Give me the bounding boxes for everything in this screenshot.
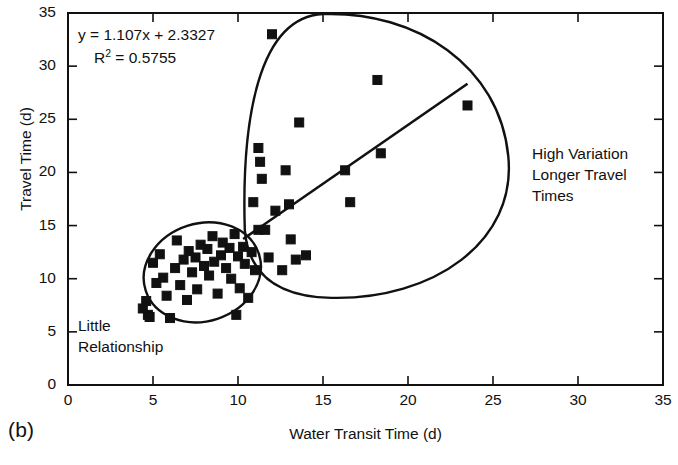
data-point bbox=[256, 157, 265, 166]
data-point bbox=[193, 285, 202, 294]
x-axis-label: Water Transit Time (d) bbox=[68, 425, 663, 443]
x-tick-label: 20 bbox=[388, 391, 428, 409]
data-point bbox=[208, 232, 217, 241]
annotation-little-relationship: Little Relationship bbox=[78, 316, 163, 358]
data-point bbox=[302, 251, 311, 260]
data-point bbox=[162, 291, 171, 300]
x-tick-label: 30 bbox=[558, 391, 598, 409]
data-point bbox=[268, 30, 277, 39]
data-point bbox=[254, 143, 263, 152]
y-tick-label: 35 bbox=[22, 3, 56, 21]
x-tick-label: 35 bbox=[643, 391, 678, 409]
data-point bbox=[257, 174, 266, 183]
data-point bbox=[183, 295, 192, 304]
regression-equation: y = 1.107x + 2.3327 R2 = 0.5755 bbox=[78, 24, 215, 70]
data-point bbox=[179, 255, 188, 264]
x-tick-label: 0 bbox=[48, 391, 88, 409]
data-point bbox=[286, 235, 295, 244]
y-tick-label: 20 bbox=[22, 162, 56, 180]
data-point bbox=[278, 266, 287, 275]
figure-panel: y = 1.107x + 2.3327 R2 = 0.5755 High Var… bbox=[0, 0, 678, 465]
data-point bbox=[142, 297, 151, 306]
data-point bbox=[291, 255, 300, 264]
data-point bbox=[271, 206, 280, 215]
x-tick-label: 25 bbox=[473, 391, 513, 409]
data-point bbox=[171, 264, 180, 273]
y-tick-label: 5 bbox=[22, 322, 56, 340]
data-point bbox=[244, 293, 253, 302]
data-point bbox=[341, 166, 350, 175]
r-squared-text: R2 = 0.5755 bbox=[94, 46, 215, 70]
equation-text: y = 1.107x + 2.3327 bbox=[78, 26, 215, 43]
data-point bbox=[376, 149, 385, 158]
data-point bbox=[217, 251, 226, 260]
annotation-high-variation: High Variation Longer Travel Times bbox=[532, 144, 628, 207]
data-point bbox=[373, 75, 382, 84]
annotation-left-line-1: Little bbox=[78, 316, 163, 337]
data-point bbox=[159, 273, 168, 282]
data-point bbox=[188, 268, 197, 277]
data-point bbox=[249, 198, 258, 207]
data-point bbox=[225, 243, 234, 252]
data-point bbox=[200, 261, 209, 270]
y-tick-label: 25 bbox=[22, 109, 56, 127]
annotation-left-line-2: Relationship bbox=[78, 337, 163, 358]
data-point bbox=[240, 259, 249, 268]
y-tick-label: 0 bbox=[22, 375, 56, 393]
data-point bbox=[222, 264, 231, 273]
data-points bbox=[138, 30, 472, 323]
data-point bbox=[149, 258, 158, 267]
data-point bbox=[251, 266, 260, 275]
r-squared-symbol: R bbox=[94, 50, 105, 67]
data-point bbox=[235, 284, 244, 293]
data-point bbox=[205, 271, 214, 280]
data-point bbox=[239, 242, 248, 251]
y-tick-label: 30 bbox=[22, 56, 56, 74]
panel-label: (b) bbox=[8, 418, 34, 442]
data-point bbox=[230, 230, 239, 239]
y-tick-label: 10 bbox=[22, 269, 56, 287]
x-tick-label: 10 bbox=[218, 391, 258, 409]
data-point bbox=[264, 253, 273, 262]
r-squared-value: = 0.5755 bbox=[111, 50, 176, 67]
data-point bbox=[227, 274, 236, 283]
trend-line bbox=[243, 84, 467, 239]
data-point bbox=[247, 248, 256, 257]
data-point bbox=[191, 253, 200, 262]
annotation-right-line-1: High Variation bbox=[532, 144, 628, 165]
data-point bbox=[232, 310, 241, 319]
data-point bbox=[166, 314, 175, 323]
x-tick-label: 5 bbox=[133, 391, 173, 409]
data-point bbox=[172, 236, 181, 245]
data-point bbox=[463, 101, 472, 110]
data-point bbox=[261, 225, 270, 234]
annotation-right-line-3: Times bbox=[532, 186, 628, 207]
x-tick-label: 15 bbox=[303, 391, 343, 409]
data-point bbox=[213, 289, 222, 298]
data-point bbox=[295, 118, 304, 127]
data-point bbox=[155, 250, 164, 259]
data-point bbox=[281, 166, 290, 175]
annotation-right-line-2: Longer Travel bbox=[532, 165, 628, 186]
data-point bbox=[346, 198, 355, 207]
data-point bbox=[285, 200, 294, 209]
y-tick-label: 15 bbox=[22, 216, 56, 234]
data-point bbox=[176, 281, 185, 290]
data-point bbox=[203, 244, 212, 253]
